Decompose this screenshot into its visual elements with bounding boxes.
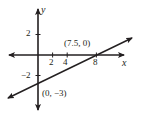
x-tick-label-8: 8 bbox=[93, 58, 98, 67]
y-axis-label: y bbox=[41, 5, 45, 15]
y-tick-label-negative-2: −2 bbox=[21, 71, 31, 80]
x-intercept-point-label: (7.5, 0) bbox=[64, 39, 90, 48]
coordinate-plane-figure: y x 2 −2 2 4 8 (7.5, 0) (0, −3) bbox=[0, 0, 142, 121]
y-intercept-point-label: (0, −3) bbox=[42, 89, 67, 98]
y-tick-label-2: 2 bbox=[26, 29, 31, 38]
x-tick-label-4: 4 bbox=[63, 58, 68, 67]
x-axis-label: x bbox=[122, 58, 126, 68]
graph-canvas bbox=[0, 0, 142, 121]
x-tick-label-2: 2 bbox=[49, 58, 54, 67]
